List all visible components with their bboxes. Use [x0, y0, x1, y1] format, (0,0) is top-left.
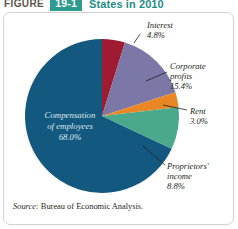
- pie-label-interest-line-0: Interest: [147, 20, 173, 30]
- pie-label-interest: Interest 4.8%: [147, 20, 173, 40]
- pie-label-interest-line-1: 4.8%: [147, 30, 173, 40]
- pie-label-rent-line-1: 3.0%: [190, 116, 208, 126]
- figure-label: FIGURE: [4, 0, 44, 9]
- figure-panel: Interest 4.8% Corporate profits 15.4% Re…: [3, 12, 234, 225]
- pie-label-corporate-profits-line-1: profits: [170, 71, 206, 81]
- pie-chart: Interest 4.8% Corporate profits 15.4% Re…: [4, 13, 234, 225]
- pie-label-rent: Rent 3.0%: [190, 106, 208, 126]
- source-note: Source: Bureau of Economic Analysis.: [13, 202, 143, 211]
- leader-line-interest: [134, 34, 140, 43]
- figure-header: FIGURE 19-1 States in 2010: [0, 0, 238, 11]
- pie-label-proprietors-income: Proprietors' income 8.8%: [167, 161, 209, 191]
- pie-label-proprietors-income-line-2: 8.8%: [167, 181, 209, 191]
- pie-label-corporate-profits: Corporate profits 15.4%: [170, 61, 206, 91]
- pie-label-corporate-profits-line-2: 15.4%: [170, 81, 206, 91]
- pie-label-compensation-line-1: of employees: [26, 121, 114, 132]
- source-prefix: Source:: [13, 202, 39, 211]
- pie-label-rent-line-0: Rent: [190, 106, 208, 116]
- figure-number-badge: 19-1: [50, 0, 82, 11]
- pie-label-compensation-line-2: 68.0%: [26, 132, 114, 143]
- pie-label-proprietors-income-line-0: Proprietors': [167, 161, 209, 171]
- pie-label-corporate-profits-line-0: Corporate: [170, 61, 206, 71]
- pie-label-compensation-line-0: Compensation: [26, 110, 114, 121]
- figure-title: States in 2010: [89, 0, 164, 10]
- figure-root: FIGURE 19-1 States in 2010: [0, 0, 238, 229]
- pie-label-proprietors-income-line-1: income: [167, 171, 209, 181]
- source-text: Bureau of Economic Analysis.: [39, 202, 143, 211]
- pie-label-compensation-of-employees: Compensation of employees 68.0%: [26, 110, 114, 143]
